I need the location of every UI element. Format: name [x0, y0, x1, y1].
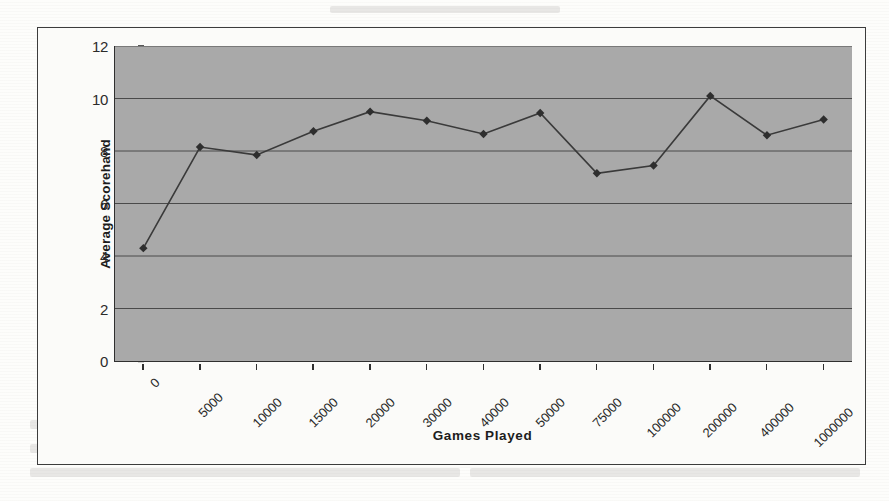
x-tick-label: 0	[147, 375, 163, 391]
x-tick-label: 75000	[589, 395, 624, 430]
chart-figure: Average Scorehand 024681012 050001000015…	[37, 27, 866, 465]
gridlines	[115, 46, 852, 309]
series-markers	[139, 92, 828, 253]
y-tick-label: 4	[74, 248, 108, 265]
data-point-marker	[366, 107, 374, 115]
x-axis-title: Games Played	[114, 428, 851, 443]
data-point-marker	[479, 130, 487, 138]
x-tick-mark	[653, 364, 655, 370]
x-tick-label: 5000	[195, 390, 225, 420]
x-tick-mark	[766, 364, 768, 370]
data-point-marker	[819, 115, 827, 123]
y-tick-label: 8	[74, 143, 108, 160]
y-tick-label: 12	[74, 38, 108, 55]
data-point-marker	[253, 151, 261, 159]
y-tick-label: 0	[74, 353, 108, 370]
y-tick-label: 10	[74, 90, 108, 107]
x-axis-tick-labels: 0500010000150002000030000400005000075000…	[114, 364, 851, 426]
x-tick-label: 15000	[306, 395, 341, 430]
x-tick-label: 40000	[476, 395, 511, 430]
x-tick-label: 30000	[419, 395, 454, 430]
y-axis-tick-labels: 024681012	[68, 46, 108, 361]
y-tick-label: 6	[74, 195, 108, 212]
x-tick-mark	[823, 364, 825, 370]
x-tick-mark	[142, 364, 144, 370]
x-tick-mark	[709, 364, 711, 370]
plot-area	[114, 46, 852, 362]
data-point-marker	[423, 117, 431, 125]
x-tick-mark	[596, 364, 598, 370]
x-tick-mark	[312, 364, 314, 370]
data-point-marker	[139, 244, 147, 252]
x-tick-mark	[539, 364, 541, 370]
x-tick-label: 50000	[533, 395, 568, 430]
line-chart-svg	[115, 46, 852, 361]
data-point-marker	[196, 143, 204, 151]
series-line	[143, 96, 823, 248]
x-tick-mark	[426, 364, 428, 370]
x-tick-label: 10000	[249, 395, 284, 430]
x-tick-mark	[256, 364, 258, 370]
x-tick-mark	[369, 364, 371, 370]
data-point-marker	[309, 127, 317, 135]
x-tick-label: 20000	[363, 395, 398, 430]
x-tick-mark	[483, 364, 485, 370]
y-tick-label: 2	[74, 300, 108, 317]
x-tick-mark	[199, 364, 201, 370]
